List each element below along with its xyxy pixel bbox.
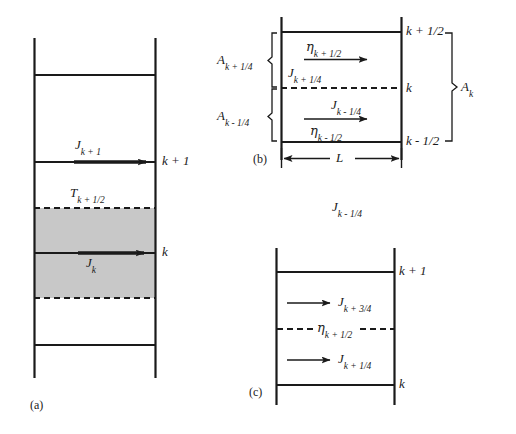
- panel-b-level-label-k-minus-half: k - 1/2: [406, 134, 439, 147]
- panel-a-label-flux-j-k-plus-1: Jk + 1: [75, 138, 101, 151]
- panel-b-level-label-k-plus-half: k + 1/2: [406, 24, 444, 37]
- panel-b-brace-right: [445, 33, 457, 141]
- panel-b-brace-upper-left: [268, 33, 277, 87]
- panel-c-label-flux-j-k-plus-three-quarter: Jk + 3/4: [338, 295, 371, 308]
- panel-c-level-label-k-plus-1: k + 1: [399, 264, 427, 277]
- figure-canvas: Jk + 1 Tk + 1/2 Jk k + 1 k (a) Ak + 1/4 …: [0, 0, 516, 434]
- panel-c-label-flux-j-k-plus-quarter: Jk + 1/4: [338, 352, 371, 365]
- panel-b-level-label-k: k: [406, 81, 412, 94]
- panel-a-graphics: [34, 38, 156, 378]
- panel-b-label-area-a-k-plus-quarter: Ak + 1/4: [217, 53, 252, 66]
- panel-b-label-flux-j-k-plus-quarter: Jk + 1/4: [288, 66, 321, 79]
- panel-b-brace-label-area-a-k: Ak: [461, 80, 473, 93]
- panel-b-caption-flux-j-k-minus-quarter: Jk - 1/4: [332, 200, 362, 213]
- panel-c-tag: (c): [249, 385, 262, 400]
- panel-b-label-eta-k-minus-half: ηk - 1/2: [310, 124, 342, 137]
- panel-b-label-area-a-k-minus-quarter: Ak - 1/4: [217, 109, 249, 122]
- panel-c-label-eta-k-plus-half: ηk + 1/2: [316, 321, 353, 334]
- panel-b-tag: (b): [253, 152, 267, 167]
- panel-b-width-label-l: L: [336, 151, 343, 164]
- panel-a-label-flux-j-k: Jk: [86, 256, 96, 269]
- panel-a-label-temperature-t-k-plus-half: Tk + 1/2: [70, 186, 105, 199]
- panel-c-level-label-k: k: [399, 377, 405, 390]
- panel-a-level-label-k-plus-1: k + 1: [162, 154, 190, 167]
- panel-b-brace-lower-left: [268, 89, 277, 141]
- panel-b-label-eta-k-plus-half: ηk + 1/2: [306, 40, 341, 53]
- panel-a-level-label-k: k: [162, 245, 168, 258]
- figure-vector-layer: [0, 0, 516, 434]
- panel-b-label-flux-j-k-minus-quarter: Jk - 1/4: [331, 98, 361, 111]
- panel-a-tag: (a): [30, 398, 43, 413]
